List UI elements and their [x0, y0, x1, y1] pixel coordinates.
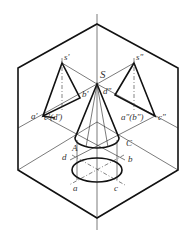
outer-hexagon: [18, 24, 178, 218]
label-front-b: b': [82, 89, 90, 99]
label-base-C: C: [126, 138, 133, 148]
side-projection-triangle: [115, 63, 155, 116]
label-base-A: A: [71, 143, 78, 153]
label-side-c: c": [158, 112, 166, 122]
label-front-a: a': [31, 111, 39, 121]
cone-projection-diagram: s' s" S b' d" a' c'(d') a"(b") c" A C d …: [0, 0, 191, 235]
label-top-d: d: [62, 152, 67, 162]
label-top-a: a: [73, 183, 78, 193]
label-top-b: b: [128, 154, 133, 164]
label-apex-S: S: [100, 68, 106, 80]
label-front-cd: c'(d'): [44, 112, 62, 122]
label-top-c: c: [114, 183, 118, 193]
front-projection-triangle: [43, 63, 80, 116]
label-side-ab: a"(b"): [121, 112, 144, 122]
label-side-d: d": [103, 86, 112, 96]
label-front-apex: s': [64, 52, 71, 62]
label-side-apex: s": [136, 52, 144, 62]
